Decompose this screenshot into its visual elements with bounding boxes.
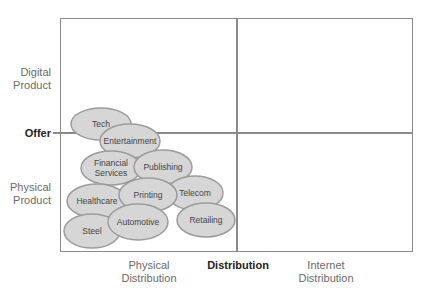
bubble-layer: TechEntertainmentFinancialServicesPublis…: [0, 0, 431, 289]
y-label-digital-line1: Digital: [13, 66, 51, 79]
y-label-digital-line2: Product: [13, 79, 51, 92]
y-label-digital-product: Digital Product: [13, 66, 51, 92]
y-label-physical-line2: Product: [10, 194, 51, 207]
bubble-label: Tech: [92, 119, 110, 129]
x-axis-title: Distribution: [207, 259, 269, 272]
bubble-label: Steel: [82, 226, 101, 236]
x-label-physical-distribution: Physical Distribution: [121, 259, 176, 285]
x-label-physical-line2: Distribution: [121, 272, 176, 285]
bubble-automotive: Automotive: [108, 204, 168, 240]
bubble-label: Retailing: [189, 215, 222, 225]
bubble-label: Telecom: [179, 188, 211, 198]
x-label-internet-line2: Distribution: [298, 272, 353, 285]
x-label-internet-distribution: Internet Distribution: [298, 259, 353, 285]
bubble-label: Publishing: [143, 162, 182, 172]
bubble-label: Financial: [94, 158, 128, 168]
y-label-physical-line1: Physical: [10, 181, 51, 194]
y-axis-title: Offer: [25, 127, 51, 140]
bubble-label: Automotive: [117, 217, 160, 227]
y-label-physical-product: Physical Product: [10, 181, 51, 207]
bubble-label: Healthcare: [76, 196, 117, 206]
x-label-internet-line1: Internet: [298, 259, 353, 272]
bubble-retailing: Retailing: [177, 203, 235, 237]
bubble-label: Services: [95, 168, 128, 178]
bubble-label: Printing: [134, 190, 163, 200]
bubble-financial-services: FinancialServices: [81, 151, 141, 185]
bubble-label: Entertainment: [104, 136, 158, 146]
x-label-physical-line1: Physical: [121, 259, 176, 272]
